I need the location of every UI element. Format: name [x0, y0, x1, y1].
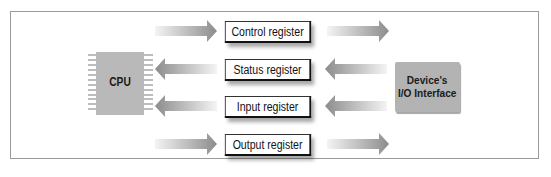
device-label-line2: I/O Interface: [398, 87, 456, 100]
arrow-left-icon: [155, 58, 217, 80]
cpu-right-pins: [144, 54, 153, 114]
input-register-box: Input register: [225, 96, 311, 118]
output-register-box: Output register: [225, 134, 311, 156]
arrow-left-icon: [325, 95, 387, 117]
input-register-label: Input register: [237, 100, 299, 114]
output-register-label: Output register: [233, 138, 303, 152]
device-label-line1: Device's: [407, 74, 448, 87]
arrow-right-icon: [327, 20, 389, 42]
device-io-interface: Device's I/O Interface: [395, 62, 460, 112]
arrow-right-icon: [155, 20, 217, 42]
control-register-label: Control register: [231, 25, 303, 39]
status-register-box: Status register: [225, 59, 311, 81]
arrow-left-icon: [325, 58, 387, 80]
arrow-left-icon: [155, 95, 217, 117]
status-register-label: Status register: [234, 63, 302, 77]
control-register-box: Control register: [225, 21, 311, 43]
arrow-right-icon: [155, 133, 217, 155]
cpu-label: CPU: [100, 75, 141, 89]
arrow-right-icon: [327, 133, 389, 155]
